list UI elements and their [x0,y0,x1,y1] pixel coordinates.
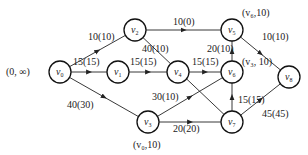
edge-label: 10(0) [173,16,195,28]
node-annotation: (v₆,10) [242,7,270,19]
edge-label: 45(45) [262,108,289,120]
edge-label: 15(15) [130,56,157,68]
node-annotation: (v₃, 10) [242,56,272,68]
edge-label: 10(10) [262,31,289,43]
edge-label: 20(20) [173,123,200,135]
network-flow-diagram: v0v1v2v3v4v5v6v7v8 10(10)15(15)40(30)15(… [0,0,308,155]
edge-label: 30(10) [152,91,179,103]
edge-label: 20(10) [207,43,234,55]
edge-label: 10(10) [88,31,115,43]
edge-label: 15(15) [192,56,219,68]
edge-label: 15(15) [238,94,265,106]
node-annotation: (0, ∞) [6,66,30,78]
edge-label: 15(15) [73,56,100,68]
edge-label: 40(10) [142,43,169,55]
edge-label: 40(30) [67,99,94,111]
node-annotation: (v₀,10) [133,139,161,151]
